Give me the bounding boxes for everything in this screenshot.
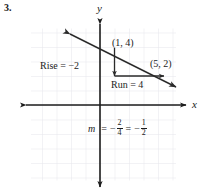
coordinate-plane-svg: [0, 0, 212, 192]
point-label-lower: (5, 2): [150, 59, 172, 69]
x-axis-label: x: [192, 99, 197, 110]
rise-label: Rise = −2: [40, 61, 79, 71]
coordinate-plane: y x (1, 4) (5, 2) Rise = −2 Run = 4 m = …: [0, 0, 212, 192]
fraction-denominator: 4: [117, 129, 123, 137]
figure-container: 3.: [0, 0, 212, 192]
y-axis-label: y: [97, 3, 102, 14]
fraction-numerator: 2: [117, 119, 123, 127]
fraction-numerator: 1: [141, 119, 147, 127]
slope-minus-second: −: [134, 123, 140, 134]
slope-variable: m: [88, 123, 95, 134]
run-label: Run = 4: [111, 80, 143, 90]
fraction-two-fourths: 2 4: [117, 119, 123, 137]
slope-equation: m = − 2 4 = − 1 2: [88, 119, 147, 137]
slope-equals-second: =: [126, 123, 132, 134]
fraction-one-half: 1 2: [141, 119, 147, 137]
point-label-upper: (1, 4): [112, 38, 134, 48]
fraction-denominator: 2: [141, 129, 147, 137]
slope-minus-first: −: [110, 123, 116, 134]
slope-equals-first: =: [101, 123, 107, 134]
